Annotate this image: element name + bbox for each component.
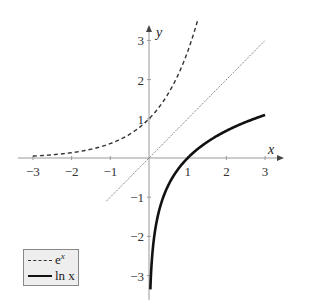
legend-item-ln: ln x — [28, 269, 75, 283]
legend-label-exp: ex — [55, 251, 65, 268]
curve-lnx — [150, 115, 265, 289]
y-tick-label: −1 — [130, 190, 144, 205]
y-tick-label: 2 — [138, 73, 145, 88]
legend-item-exp: ex — [28, 253, 65, 267]
solid-line-swatch — [28, 275, 52, 277]
x-tick-label: −2 — [65, 164, 79, 179]
x-tick-label: 1 — [184, 164, 191, 179]
x-tick-label: −3 — [26, 164, 40, 179]
legend: ex ln x — [23, 249, 79, 286]
y-tick-label: 3 — [138, 33, 145, 48]
y-axis-label: y — [154, 25, 163, 40]
x-axis-arrow — [277, 155, 284, 161]
x-axis-label: x — [267, 142, 275, 157]
dashed-line-swatch — [28, 260, 52, 261]
y-tick-label: 1 — [138, 112, 145, 127]
curve-expx — [33, 21, 197, 156]
legend-label-ln: ln x — [55, 268, 75, 284]
x-tick-label: 3 — [262, 164, 269, 179]
y-tick-label: −2 — [130, 229, 144, 244]
y-tick-label: −3 — [130, 269, 144, 284]
y-axis-arrow — [146, 25, 152, 32]
x-tick-label: −1 — [103, 164, 117, 179]
x-tick-label: 2 — [223, 164, 230, 179]
